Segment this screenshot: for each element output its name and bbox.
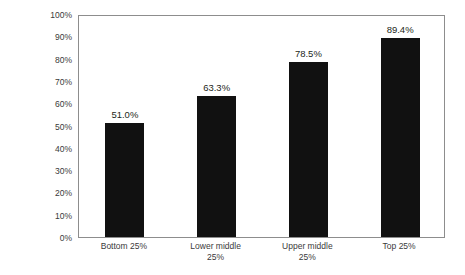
bar: [381, 38, 420, 237]
x-axis-category-label-line: Top 25%: [353, 241, 445, 252]
bar: [289, 62, 328, 237]
x-axis-category-label-line: 25%: [262, 252, 354, 263]
bar-chart: Home ownership rates 0%10%20%30%40%50%60…: [0, 0, 465, 275]
bar-value-label: 63.3%: [175, 82, 258, 93]
x-axis-category-label-line: Lower middle: [170, 241, 262, 252]
y-axis-tick-labels: 0%10%20%30%40%50%60%70%80%90%100%: [38, 15, 72, 238]
x-axis-category-label-line: 25%: [170, 252, 262, 263]
x-axis-category-labels: Bottom 25%Lower middle25%Upper middle25%…: [78, 241, 445, 273]
x-axis-category-label-line: Upper middle: [262, 241, 354, 252]
bar-slot: 78.5%: [289, 16, 328, 237]
bar-slot: 63.3%: [197, 16, 236, 237]
x-axis-category-label: Lower middle25%: [170, 241, 262, 263]
y-axis-tick-label: 0%: [38, 233, 72, 243]
y-axis-tick-label: 60%: [38, 99, 72, 109]
bar: [197, 96, 236, 237]
y-axis-tick-label: 100%: [38, 10, 72, 20]
y-axis-tick-label: 50%: [38, 122, 72, 132]
y-axis-tick-label: 10%: [38, 211, 72, 221]
y-axis-tick-label: 80%: [38, 55, 72, 65]
x-axis-category-label-line: Bottom 25%: [78, 241, 170, 252]
bar-slot: 51.0%: [105, 16, 144, 237]
x-axis-category-label: Bottom 25%: [78, 241, 170, 252]
y-axis-tick-label: 30%: [38, 166, 72, 176]
y-axis-tick-label: 90%: [38, 32, 72, 42]
bar-value-label: 89.4%: [359, 24, 442, 35]
bar-value-label: 51.0%: [83, 109, 166, 120]
x-axis-category-label: Upper middle25%: [262, 241, 354, 263]
bar-slot: 89.4%: [381, 16, 420, 237]
y-axis-tick-label: 20%: [38, 188, 72, 198]
y-axis-tick-label: 70%: [38, 77, 72, 87]
x-axis-category-label: Top 25%: [353, 241, 445, 252]
plot-frame: 51.0%63.3%78.5%89.4%: [78, 15, 445, 238]
plot-area: 51.0%63.3%78.5%89.4%: [79, 16, 444, 237]
y-axis-tick-label: 40%: [38, 144, 72, 154]
bar-value-label: 78.5%: [267, 48, 350, 59]
bar: [105, 123, 144, 237]
